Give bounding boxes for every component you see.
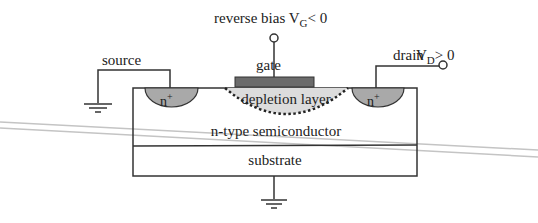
- drain-voltage-label: VD> 0: [416, 47, 455, 66]
- gate-electrode: [235, 77, 314, 87]
- source-ground-icon: [84, 104, 112, 112]
- gate-label: gate: [256, 57, 281, 73]
- source-label: source: [102, 52, 141, 68]
- jfet-diagram: reverse bias VG< 0 gate source drain VD>…: [0, 0, 538, 223]
- substrate-divider: [133, 145, 417, 146]
- drain-wire: [376, 66, 439, 88]
- substrate-ground-icon: [261, 200, 287, 208]
- gate-terminal: [270, 34, 278, 42]
- depletion-layer-label: depletion layer: [241, 91, 331, 107]
- gate-bias-label: reverse bias VG< 0: [214, 10, 327, 29]
- channel-label: n-type semiconductor: [211, 123, 341, 139]
- substrate-label: substrate: [248, 152, 302, 168]
